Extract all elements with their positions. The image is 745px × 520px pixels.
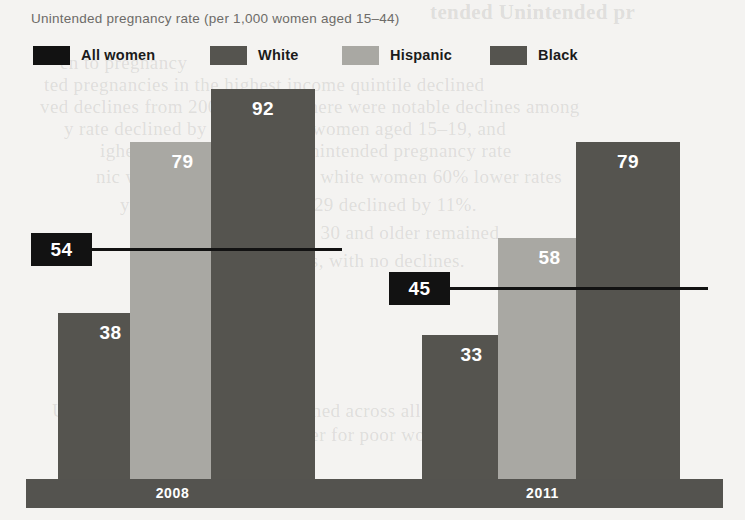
x-axis-band: 20082011	[26, 479, 723, 508]
bar-2008-black[interactable]: 92	[211, 89, 315, 479]
all-women-value-badge-2011[interactable]: 45	[389, 272, 450, 305]
chart-figure: tended Unintended pren to pregnancyted p…	[0, 0, 745, 520]
bar-value-label: 92	[211, 98, 315, 120]
all-women-value-badge-2008[interactable]: 54	[31, 233, 92, 266]
bar-2011-black[interactable]: 79	[576, 142, 680, 479]
all-women-reference-line-2011	[450, 287, 708, 290]
x-axis-tick-label: 2008	[120, 485, 225, 501]
bar-value-label: 79	[576, 151, 680, 173]
plot-area: 3879923358795445	[0, 0, 745, 520]
x-axis-tick-label: 2011	[490, 485, 595, 501]
all-women-reference-line-2008	[92, 248, 342, 251]
